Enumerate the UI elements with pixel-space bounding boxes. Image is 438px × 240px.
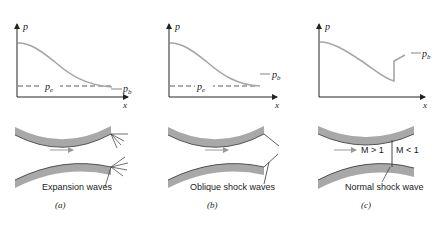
mach-downstream-label: M < 1: [396, 145, 419, 155]
upper-wall: [15, 126, 111, 147]
expansion-waves: [105, 134, 128, 187]
caption-b: (b): [207, 200, 218, 210]
panel-c: p x pb M > 1 M < 1 Normal shock wave (c): [318, 21, 431, 210]
y-axis-label: p: [174, 21, 180, 32]
upper-wall: [318, 126, 414, 145]
nozzle-c: M > 1 M < 1 Normal shock wave (c): [318, 126, 424, 210]
panel-a: p x pe pb: [15, 21, 132, 210]
x-axis-label: x: [274, 100, 279, 110]
wave-label: Oblique shock waves: [190, 182, 276, 192]
pb-label: pb: [421, 48, 431, 61]
x-axis-label: x: [422, 100, 427, 110]
pb-label: pb: [122, 83, 132, 96]
caption-c: (c): [361, 200, 371, 210]
wave-label: Normal shock wave: [345, 182, 424, 192]
y-axis-label: p: [324, 21, 330, 32]
pressure-curve: [18, 43, 112, 87]
upper-wall: [168, 126, 264, 147]
pressure-curve-with-shock: [320, 42, 405, 81]
pressure-plot-a: p x pe pb: [17, 21, 132, 110]
pressure-plot-b: p x pe pb: [169, 21, 281, 110]
y-axis-label: p: [22, 21, 28, 32]
pressure-plot-c: p x pb: [319, 21, 431, 110]
oblique-shock-waves: [264, 134, 279, 184]
x-axis-label: x: [122, 100, 127, 110]
nozzle-b: Oblique shock waves (b): [168, 126, 279, 210]
wave-label: Expansion waves: [42, 182, 113, 192]
nozzle-a: Expansion waves (a): [15, 126, 128, 210]
panel-b: p x pe pb Oblique shock waves (b): [168, 21, 281, 210]
caption-a: (a): [55, 200, 66, 210]
pb-label: pb: [271, 69, 281, 82]
mach-upstream-label: M > 1: [361, 145, 384, 155]
pressure-curve: [170, 43, 260, 86]
